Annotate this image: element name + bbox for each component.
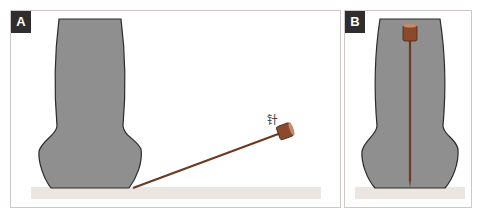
needle-head [403,24,417,42]
panel-a-illustration [11,11,341,208]
base-surface [31,187,321,199]
panel-a-badge: A [11,11,31,33]
panel-b-badge: B [345,11,365,33]
needle-label: 针 [267,111,278,127]
panel-b-illustration [345,11,472,208]
panel-a: A 针 [10,10,341,208]
needle-shaft [133,133,281,188]
needle-head [276,122,296,141]
cylinder-body [39,19,141,188]
panel-b: B [344,10,472,208]
base-surface [355,187,465,199]
